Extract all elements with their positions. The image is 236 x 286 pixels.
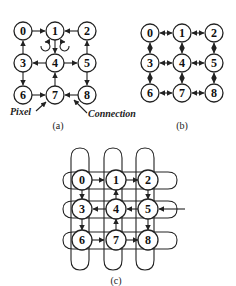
svg-text:0: 0 (20, 24, 26, 38)
pixel-pointer-arrow (36, 102, 46, 111)
rotation-ccw-icon (41, 42, 50, 51)
svg-text:8: 8 (145, 233, 151, 247)
node-c-4: 4 (106, 199, 126, 219)
svg-text:8: 8 (84, 88, 90, 102)
node-a-0: 0 (14, 22, 32, 40)
svg-text:8: 8 (211, 86, 217, 100)
node-b-8: 8 (205, 84, 223, 102)
caption-c: (c) (110, 275, 121, 286)
svg-text:6: 6 (147, 86, 153, 100)
node-c-1: 1 (106, 170, 126, 190)
svg-text:3: 3 (79, 202, 85, 216)
svg-text:4: 4 (113, 202, 119, 216)
node-b-3: 3 (141, 54, 159, 72)
svg-text:6: 6 (79, 233, 85, 247)
svg-text:1: 1 (113, 173, 119, 187)
panel-c: 0 1 2 3 4 5 6 7 8 (c) (63, 148, 185, 286)
svg-text:2: 2 (84, 24, 90, 38)
svg-text:5: 5 (211, 56, 217, 70)
svg-text:0: 0 (79, 173, 85, 187)
svg-text:1: 1 (52, 24, 58, 38)
svg-text:4: 4 (52, 56, 58, 70)
svg-text:6: 6 (20, 88, 26, 102)
caption-a: (a) (52, 120, 63, 132)
node-c-7: 7 (106, 230, 126, 250)
node-b-0: 0 (141, 24, 159, 42)
rotation-cw-icon (60, 42, 69, 51)
node-c-3: 3 (72, 199, 92, 219)
node-b-7: 7 (173, 84, 191, 102)
svg-text:7: 7 (113, 233, 119, 247)
svg-text:3: 3 (20, 56, 26, 70)
svg-text:5: 5 (145, 202, 151, 216)
node-c-0: 0 (72, 170, 92, 190)
node-c-6: 6 (72, 230, 92, 250)
figure-canvas: 0 1 2 3 4 5 6 7 8 Pixel Connection (a) 0… (0, 0, 236, 286)
svg-text:4: 4 (179, 56, 185, 70)
panel-a: 0 1 2 3 4 5 6 7 8 Pixel Connection (a) (10, 22, 136, 132)
node-b-1: 1 (173, 24, 191, 42)
node-a-7: 7 (46, 86, 64, 104)
svg-text:1: 1 (179, 26, 185, 40)
pixel-label: Pixel (10, 106, 31, 117)
svg-text:2: 2 (145, 173, 151, 187)
caption-b: (b) (176, 120, 188, 132)
node-a-4: 4 (46, 54, 64, 72)
node-b-4: 4 (173, 54, 191, 72)
node-b-5: 5 (205, 54, 223, 72)
svg-text:7: 7 (52, 88, 58, 102)
svg-text:3: 3 (147, 56, 153, 70)
node-c-5: 5 (138, 199, 158, 219)
node-a-2: 2 (78, 22, 96, 40)
node-c-2: 2 (138, 170, 158, 190)
svg-text:2: 2 (211, 26, 217, 40)
node-b-6: 6 (141, 84, 159, 102)
panel-b: 0 1 2 3 4 5 6 7 8 (b) (141, 24, 223, 132)
node-a-1: 1 (46, 22, 64, 40)
svg-text:7: 7 (179, 86, 185, 100)
svg-text:0: 0 (147, 26, 153, 40)
node-a-5: 5 (78, 54, 96, 72)
node-b-2: 2 (205, 24, 223, 42)
svg-text:5: 5 (84, 56, 90, 70)
node-a-8: 8 (78, 86, 96, 104)
node-a-6: 6 (14, 86, 32, 104)
node-c-8: 8 (138, 230, 158, 250)
connection-label: Connection (88, 108, 136, 119)
node-a-3: 3 (14, 54, 32, 72)
